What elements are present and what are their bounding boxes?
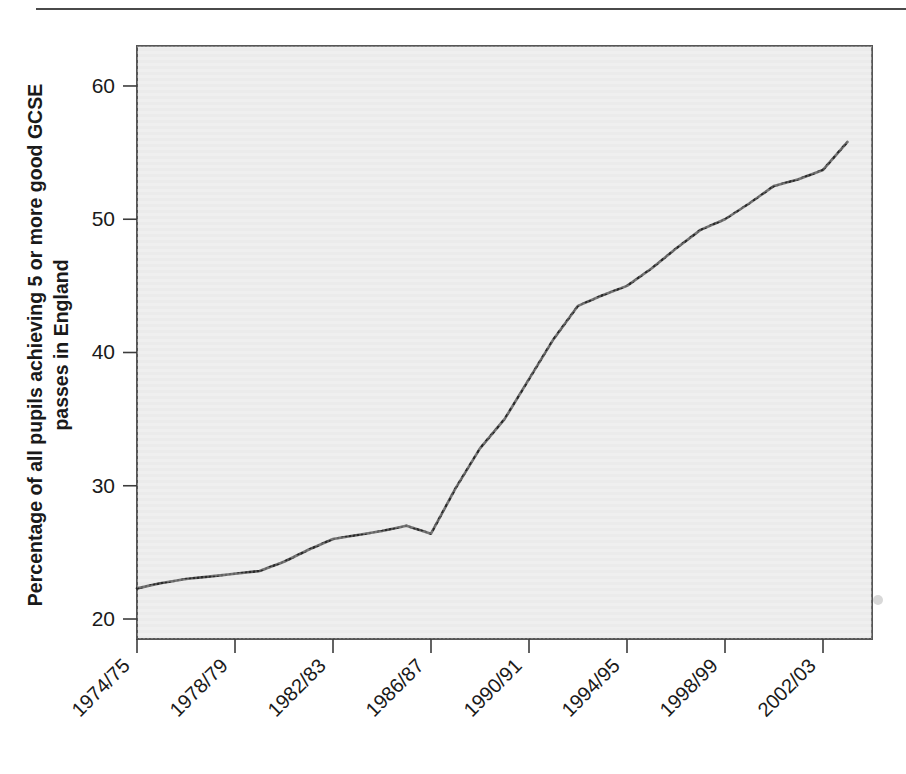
- y-axis-title-line-1: Percentage of all pupils achieving 5 or …: [24, 84, 46, 606]
- y-axis-ticks: 2030405060: [92, 74, 137, 630]
- y-axis-title: Percentage of all pupils achieving 5 or …: [24, 84, 72, 606]
- x-tick-label: 1978/79: [165, 654, 232, 721]
- y-tick-label: 30: [92, 474, 115, 497]
- x-tick-label: 1998/99: [655, 654, 722, 721]
- y-tick-label: 20: [92, 607, 115, 630]
- x-tick-label: 1982/83: [263, 654, 330, 721]
- x-tick-label: 1990/91: [459, 654, 526, 721]
- x-tick-label: 2002/03: [753, 654, 820, 721]
- y-tick-label: 40: [92, 340, 115, 363]
- x-tick-label: 1974/75: [67, 654, 134, 721]
- y-tick-label: 60: [92, 74, 115, 97]
- plot-background: [137, 46, 872, 639]
- gcse-line-chart: 2030405060 1974/751978/791982/831986/871…: [0, 0, 906, 774]
- x-axis-ticks: 1974/751978/791982/831986/871990/911994/…: [67, 639, 823, 721]
- y-axis-title-line-2: passes in England: [50, 259, 72, 430]
- y-tick-label: 50: [92, 207, 115, 230]
- print-speck-artifact: [873, 595, 883, 605]
- x-tick-label: 1994/95: [557, 654, 624, 721]
- x-tick-label: 1986/87: [361, 654, 428, 721]
- figure-container: 2030405060 1974/751978/791982/831986/871…: [0, 0, 906, 774]
